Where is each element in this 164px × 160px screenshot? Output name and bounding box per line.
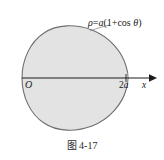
equation-close-paren: ) [138,17,141,28]
equation-cos-term: (1+cos [103,17,133,28]
x-intercept-label: 2a [119,81,129,91]
polar-equation-label: ρ=a(1+cos θ) [88,18,142,28]
cardioid-figure: ρ=a(1+cos θ) O 2a x 图 4-17 [0,0,164,160]
x-intercept-variable: a [124,80,129,90]
x-axis-arrowhead [149,74,157,82]
x-axis-label: x [142,81,146,91]
figure-caption: 图 4-17 [0,141,164,151]
origin-label: O [25,80,32,90]
